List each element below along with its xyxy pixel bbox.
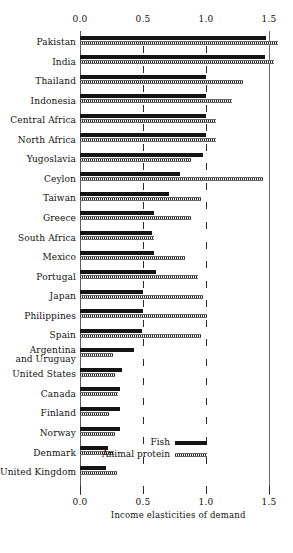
category-label: United States [0,370,76,380]
bar-fish [80,75,206,79]
gridline-tick-0-5 [143,300,144,307]
gridline-tick-0-5 [143,66,144,73]
gridline-tick-1-0 [206,183,207,190]
bar-fish [80,114,206,118]
bar-fish [80,36,266,40]
category-label: Portugal [0,273,76,283]
bar-animal-protein [80,236,154,240]
bar-fish [80,192,169,196]
legend-swatch-fish [175,441,207,445]
category-label: Norway [0,429,76,439]
gridline-tick-0-5 [143,320,144,327]
gridline-tick-0-5 [143,242,144,249]
bar-fish [80,153,203,157]
category-label: Spain [0,331,76,341]
bar-fish [80,94,206,98]
bar-fish [80,172,180,176]
category-label: Finland [0,409,76,419]
x-axis-bottom-tick-label-1: 0.5 [135,497,150,507]
gridline-tick-0-5 [143,398,144,405]
gridline-tick-1-0 [206,378,207,385]
bar-fish [80,290,143,294]
bar-fish [80,427,120,431]
bar-animal-protein [80,471,117,475]
category-label: Mexico [0,253,76,263]
x-axis-bottom-tick-label-2: 1.0 [198,497,213,507]
x-axis-tick-2 [206,486,207,494]
gridline-tick-1-0 [206,261,207,268]
gridline-tick-0-5 [143,85,144,92]
gridline-tick-1-0 [206,66,207,73]
bar-animal-protein [80,60,274,64]
bar-fish [80,368,122,372]
gridline-tick-1-0 [206,163,207,170]
gridline-tick-0-5 [143,339,144,346]
bar-animal-protein [80,373,115,377]
category-label: Denmark [0,449,76,459]
gridline-tick-1-0 [206,46,207,53]
bar-animal-protein [80,197,201,201]
bar-animal-protein [80,295,203,299]
bar-fish [80,55,265,59]
gridline-tick-0-5 [143,163,144,170]
x-axis-top-tick-label-1: 0.5 [135,14,150,24]
bar-fish [80,133,206,137]
gridline-tick-1-0 [206,320,207,327]
gridline-tick-1-0 [206,417,207,424]
bar-fish [80,270,156,274]
category-label: North Africa [0,136,76,146]
gridline-tick-0-5 [143,378,144,385]
gridline-tick-1-0 [206,202,207,209]
bar-animal-protein [80,256,185,260]
x-axis-bottom-tick-label-3: 1.5 [261,497,276,507]
bar-fish [80,407,120,411]
gridline-tick-1-0 [206,222,207,229]
gridline-tick-0-5 [143,144,144,151]
bar-animal-protein [80,412,109,416]
bar-animal-protein [80,138,216,142]
bar-animal-protein [80,177,263,181]
x-axis-top-tick-label-2: 1.0 [198,14,213,24]
gridline-tick-0-5 [143,124,144,131]
category-label: Philippines [0,312,76,322]
gridline-tick-1-0 [206,359,207,366]
category-label: Indonesia [0,97,76,107]
gridline-tick-0-5 [143,417,144,424]
category-label: Taiwan [0,194,76,204]
gridline-tick-1-0 [206,339,207,346]
category-label: Central Africa [0,116,76,126]
bar-animal-protein [80,216,191,220]
bar-fish [80,309,143,313]
category-label: United Kingdom [0,468,76,478]
x-axis-tick-1 [143,486,144,494]
category-label: Canada [0,390,76,400]
gridline-tick-1-0 [206,144,207,151]
gridline-tick-1-0 [206,105,207,112]
category-label: Yugoslavia [0,155,76,165]
legend-swatch-animal-protein [175,453,207,457]
gridline-tick-0-5 [143,281,144,288]
category-label: Thailand [0,77,76,87]
category-label: Japan [0,292,76,302]
gridline-tick-0-5 [143,105,144,112]
gridline-tick-1-0 [206,85,207,92]
bar-animal-protein [80,275,198,279]
bar-animal-protein [80,119,216,123]
chart-canvas: 0.00.51.01.5PakistanIndiaThailandIndones… [0,0,293,553]
legend-label-animal-protein: Animal protein [70,449,170,459]
bar-fish [80,387,120,391]
x-axis-top-tick-label-3: 1.5 [261,14,276,24]
x-axis-top-tick-label-0: 0.0 [72,14,87,24]
gridline-tick-0-5 [143,202,144,209]
bar-animal-protein [80,158,191,162]
x-axis-bottom-tick-label-0: 0.0 [72,497,87,507]
bar-fish [80,211,154,215]
gridline-tick-1-0 [206,124,207,131]
gridline-tick-0-5 [143,222,144,229]
category-label: Argentina and Uruguay [0,346,76,365]
gridline-tick-0-5 [143,359,144,366]
bar-animal-protein [80,432,115,436]
bar-fish [80,231,152,235]
category-label: Greece [0,214,76,224]
gridline-tick-1-0 [206,242,207,249]
